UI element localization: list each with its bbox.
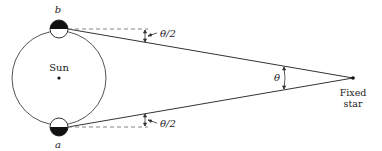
sun-center-dot (57, 76, 60, 79)
half-angle-marker-top (144, 30, 158, 42)
sun-label: Sun (49, 62, 69, 73)
sightline-a (68, 78, 353, 127)
earth-a-label: a (55, 139, 61, 150)
earth-a (50, 118, 68, 136)
sightline-b (68, 29, 353, 78)
half-angle-label-top: θ/2 (160, 28, 176, 39)
half-angle-label-bottom: θ/2 (160, 118, 176, 129)
angle-marker (283, 67, 286, 89)
fixed-star-label-line1: Fixed (340, 87, 367, 98)
half-angle-marker-bottom (144, 114, 158, 126)
angle-label: θ (274, 72, 280, 83)
fixed-star-dot (351, 76, 355, 80)
earth-b-label: b (55, 4, 61, 15)
parallax-diagram: Sun b a θ/2 θ/2 θ Fixed (0, 0, 382, 151)
fixed-star-label-line2: star (344, 98, 363, 109)
earth-b (50, 20, 68, 38)
